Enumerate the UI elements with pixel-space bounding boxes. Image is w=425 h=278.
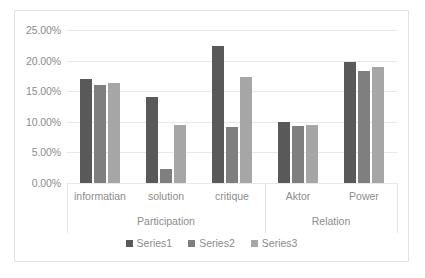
legend-swatch-icon [188,240,195,247]
plot-area: 0.00%5.00%10.00%15.00%20.00%25.00% [67,30,397,183]
axis-separator [265,183,266,209]
category-axis: informatiansolutioncritiqueAktorPower [67,183,397,209]
bar[interactable] [278,122,290,183]
bar[interactable] [226,127,238,183]
axis-separator [67,209,68,233]
bar[interactable] [358,71,370,183]
bar[interactable] [344,62,356,183]
category-label: solution [133,183,199,209]
chart-frame: 0.00%5.00%10.00%15.00%20.00%25.00% infor… [14,10,409,262]
y-axis-tick-label: 10.00% [26,116,61,128]
group-label: Relation [265,209,397,233]
bar[interactable] [160,169,172,183]
bar[interactable] [146,97,158,183]
legend-swatch-icon [251,240,258,247]
bar[interactable] [108,83,120,183]
legend-label: Series3 [262,237,298,249]
bar-group [199,30,265,183]
bar[interactable] [94,85,106,183]
y-axis-tick-label: 15.00% [26,85,61,97]
bar[interactable] [306,125,318,183]
category-label: Aktor [265,183,331,209]
bar[interactable] [174,125,186,183]
y-axis-tick-label: 5.00% [32,146,61,158]
category-label: critique [199,183,265,209]
chart-legend: Series1Series2Series3 [15,237,408,249]
group-label: Participation [67,209,265,233]
bar[interactable] [372,67,384,183]
axis-separator [265,209,266,233]
bars-layer [67,30,397,183]
legend-item[interactable]: Series1 [126,237,173,249]
bar[interactable] [240,77,252,183]
bar-group [67,30,133,183]
bar-group [331,30,397,183]
category-label: Power [331,183,397,209]
axis-separator [67,183,68,209]
legend-label: Series2 [199,237,235,249]
axis-separator [397,209,398,233]
bar[interactable] [80,79,92,183]
group-axis: ParticipationRelation [67,209,397,233]
bar[interactable] [292,126,304,183]
y-axis-tick-label: 25.00% [26,24,61,36]
legend-label: Series1 [137,237,173,249]
legend-item[interactable]: Series3 [251,237,298,249]
bar-group [133,30,199,183]
legend-swatch-icon [126,240,133,247]
bar[interactable] [212,46,224,183]
y-axis-tick-label: 0.00% [32,177,61,189]
axis-top-line [67,183,397,184]
category-label: informatian [67,183,133,209]
legend-item[interactable]: Series2 [188,237,235,249]
axis-separator [397,183,398,209]
bar-group [265,30,331,183]
y-axis-tick-label: 20.00% [26,55,61,67]
